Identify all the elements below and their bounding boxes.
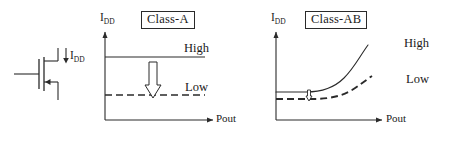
class-ab-y-axis-label: IDD (271, 12, 286, 24)
class-a-x-axis-label: Pout (216, 113, 236, 124)
class-ab-label-low: Low (406, 73, 429, 86)
device-current-label-sub: DD (74, 55, 85, 64)
class-ab-y-axis-label-sub: DD (275, 17, 286, 26)
device-current-label: IDD (70, 50, 85, 62)
class-ab-axes (276, 32, 382, 120)
class-a-label-high: High (184, 42, 209, 55)
class-ab-title: Class-AB (305, 11, 367, 29)
class-ab-curve-high (276, 45, 368, 92)
source-arrowhead (45, 79, 50, 85)
class-a-y-axis-label-sub: DD (104, 17, 115, 26)
class-ab-curve-low (276, 76, 372, 99)
class-a-title: Class-A (141, 11, 195, 29)
mosfet-transistor-symbol (14, 48, 58, 100)
class-a-bias-reduction-arrow (145, 62, 161, 98)
class-ab-x-axis-label: Pout (386, 113, 406, 124)
device-current-arrow (63, 48, 69, 64)
class-a-label-low: Low (185, 81, 208, 94)
figure-root: IDD IDD Class-A High Low Pout IDD Class-… (0, 0, 455, 142)
device-current-arrowhead (63, 58, 69, 64)
class-a-y-axis-label: IDD (100, 12, 115, 24)
class-ab-label-high: High (404, 37, 429, 50)
